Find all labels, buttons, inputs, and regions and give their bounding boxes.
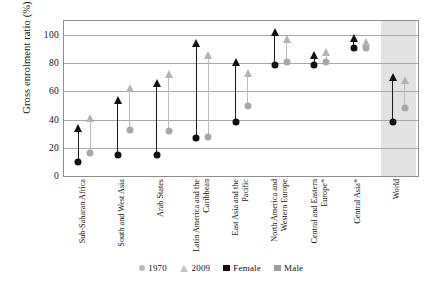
plot-area	[63, 20, 419, 177]
x-axis-label-text: World	[393, 179, 403, 255]
data-point-2009	[362, 38, 370, 46]
data-point-1970	[193, 134, 200, 141]
data-point-2009	[271, 28, 279, 36]
data-point-1970	[114, 151, 121, 158]
data-point-2009	[74, 124, 82, 132]
connector-line	[117, 103, 118, 155]
data-point-1970	[389, 119, 396, 126]
connector-line	[208, 58, 209, 137]
chart-legend: 19702009FemaleMale	[0, 263, 442, 273]
connector-line	[196, 46, 197, 138]
y-tick-label: 100	[19, 30, 59, 40]
legend-label: Female	[233, 263, 261, 273]
y-tick-label: 20	[19, 143, 59, 153]
data-point-1970	[311, 61, 318, 68]
data-point-1970	[75, 158, 82, 165]
connector-line	[168, 77, 169, 131]
y-tick-label: 60	[19, 86, 59, 96]
y-axis-tick-labels: 020406080100	[14, 20, 59, 177]
square-marker-icon	[274, 265, 281, 272]
data-point-1970	[205, 133, 212, 140]
data-point-2009	[153, 79, 161, 87]
y-tick-label: 80	[19, 58, 59, 68]
circle-marker-icon	[139, 265, 145, 271]
data-point-1970	[283, 58, 290, 65]
chart-figure: Gross enrolment ratio (%) 020406080100 S…	[0, 0, 442, 289]
data-point-2009	[244, 69, 252, 77]
data-point-2009	[114, 96, 122, 104]
legend-item-female[interactable]: Female	[223, 263, 261, 273]
connector-line	[235, 65, 236, 123]
data-point-1970	[165, 127, 172, 134]
connector-line	[78, 131, 79, 162]
data-point-2009	[165, 70, 173, 78]
data-point-2009	[86, 114, 94, 122]
data-point-2009	[232, 58, 240, 66]
y-tick-label: 40	[19, 115, 59, 125]
data-point-1970	[244, 102, 251, 109]
data-point-2009	[204, 51, 212, 59]
data-point-1970	[350, 44, 357, 51]
legend-item-1970[interactable]: 1970	[139, 263, 167, 273]
data-point-2009	[401, 76, 409, 84]
data-point-2009	[310, 51, 318, 59]
connector-line	[129, 91, 130, 129]
x-axis-label-world: World	[358, 179, 436, 257]
data-point-layer	[64, 21, 418, 176]
triangle-marker-icon	[180, 265, 188, 272]
data-point-2009	[283, 35, 291, 43]
x-axis-category-labels: Sub-Saharan AfricaSouth and West AsiaAra…	[63, 179, 419, 257]
connector-line	[392, 80, 393, 122]
data-point-2009	[322, 48, 330, 56]
data-point-2009	[192, 39, 200, 47]
data-point-2009	[126, 84, 134, 92]
data-point-2009	[389, 73, 397, 81]
data-point-1970	[153, 151, 160, 158]
data-point-2009	[350, 34, 358, 42]
data-point-1970	[323, 58, 330, 65]
data-point-1970	[401, 105, 408, 112]
connector-line	[156, 86, 157, 155]
square-marker-icon	[223, 265, 230, 272]
legend-label: 1970	[148, 263, 167, 273]
data-point-1970	[87, 150, 94, 157]
legend-item-2009[interactable]: 2009	[180, 263, 210, 273]
data-point-1970	[126, 126, 133, 133]
legend-label: 2009	[192, 263, 211, 273]
legend-label: Male	[284, 263, 303, 273]
data-point-1970	[271, 61, 278, 68]
data-point-1970	[232, 119, 239, 126]
legend-item-male[interactable]: Male	[274, 263, 303, 273]
connector-line	[90, 121, 91, 153]
